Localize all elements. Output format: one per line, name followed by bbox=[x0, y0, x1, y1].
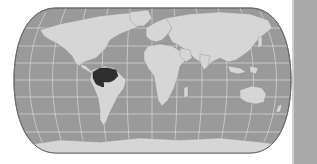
world-map-svg bbox=[0, 0, 317, 164]
side-strip bbox=[294, 0, 317, 164]
world-map bbox=[0, 0, 317, 164]
